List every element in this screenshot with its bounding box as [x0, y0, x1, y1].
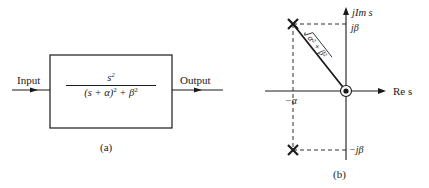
- caption-b: (b): [333, 169, 346, 180]
- tf-denominator: (s + α)2 + β2: [66, 87, 156, 99]
- input-label: Input: [17, 75, 40, 86]
- caption-a: (a): [100, 142, 112, 153]
- diagram-canvas: α² + β²: [0, 0, 429, 188]
- output-arrow-icon: [194, 88, 202, 93]
- input-arrow-icon: [30, 88, 38, 93]
- pole-zero-plot: α² + β²: [265, 9, 384, 160]
- real-axis-label: Re s: [393, 86, 412, 97]
- real-tick: −α: [285, 96, 297, 106]
- pos-imag-tick: jβ: [351, 23, 359, 33]
- radius-label: α² + β²: [302, 29, 332, 64]
- radius-line: [293, 24, 346, 91]
- imag-axis-label: jIm s: [352, 8, 373, 19]
- transfer-function: s2 (s + α)2 + β2: [66, 72, 156, 98]
- neg-imag-tick: −jβ: [349, 145, 364, 155]
- zero-inner-circle-icon: [343, 88, 348, 93]
- output-label: Output: [180, 75, 211, 86]
- fraction-bar: [66, 85, 156, 86]
- tf-numerator: s2: [66, 72, 156, 84]
